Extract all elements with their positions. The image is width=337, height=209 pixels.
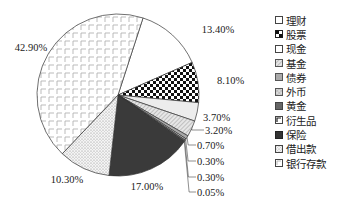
slice-label-10: 42.90%: [15, 42, 48, 53]
legend-label: 理财: [286, 13, 306, 28]
swatch-icon: [275, 102, 283, 110]
slice-label-0: 13.40%: [202, 24, 235, 35]
slice-label-5: 0.30%: [197, 156, 224, 167]
legend-label: 债券: [286, 70, 306, 85]
legend-label: 银行存款: [286, 156, 326, 171]
slice-label-3: 3.20%: [205, 125, 232, 136]
legend-label: 基金: [286, 56, 306, 71]
legend-item-xianjin: 现金: [275, 42, 326, 56]
legend-label: 外币: [286, 84, 306, 99]
slice-label-6: 0.30%: [197, 172, 224, 183]
slice-label-2: 3.70%: [203, 112, 230, 123]
legend-label: 黄金: [286, 98, 306, 113]
pie-slices: [37, 14, 199, 176]
legend-label: 现金: [286, 41, 306, 56]
legend-item-licai: 理财: [275, 13, 326, 27]
legend-label: 衍生品: [286, 113, 316, 128]
swatch-icon: [275, 16, 283, 24]
swatch-icon: [275, 88, 283, 96]
slice-label-1: 8.10%: [217, 75, 244, 86]
legend-item-gupiao: 股票: [275, 27, 326, 41]
legend-item-jiechukuan: 借出款: [275, 142, 326, 156]
swatch-icon: [275, 45, 283, 53]
legend-item-yanshengpin: 衍生品: [275, 113, 326, 127]
swatch-icon: [275, 145, 283, 153]
swatch-icon: [275, 131, 283, 139]
legend-item-huangjin: 黄金: [275, 99, 326, 113]
slice-label-4: 0.70%: [197, 140, 224, 151]
slice-label-9: 10.30%: [51, 174, 84, 185]
swatch-icon: [275, 59, 283, 67]
legend-label: 保险: [286, 127, 306, 142]
slice-label-7: 0.05%: [197, 187, 224, 198]
swatch-icon: [275, 73, 283, 81]
legend-item-waibi: 外币: [275, 84, 326, 98]
legend: 理财 股票 现金 基金 债券 外币 黄金 衍生品 保险 借出款 银行存款: [275, 13, 326, 170]
legend-item-zhaiquan: 债券: [275, 70, 326, 84]
swatch-icon: [275, 30, 283, 38]
swatch-icon: [275, 116, 283, 124]
slice-label-8: 17.00%: [131, 181, 164, 192]
swatch-icon: [275, 159, 283, 167]
legend-item-yinhangcunkuan: 银行存款: [275, 156, 326, 170]
legend-item-baoxian: 保险: [275, 127, 326, 141]
legend-item-jijin: 基金: [275, 56, 326, 70]
legend-label: 借出款: [286, 141, 316, 156]
legend-label: 股票: [286, 27, 306, 42]
